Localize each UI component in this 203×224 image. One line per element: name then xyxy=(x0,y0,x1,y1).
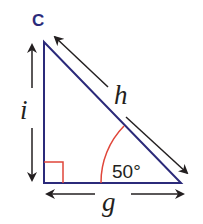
right-triangle-diagram: C i h g 50° xyxy=(0,0,203,224)
side-label-i: i xyxy=(20,95,28,125)
side-label-g: g xyxy=(102,187,116,217)
vertex-label-c: C xyxy=(32,11,44,30)
angle-label: 50° xyxy=(112,161,141,182)
right-angle-marker xyxy=(44,162,63,183)
side-label-h: h xyxy=(114,80,128,110)
